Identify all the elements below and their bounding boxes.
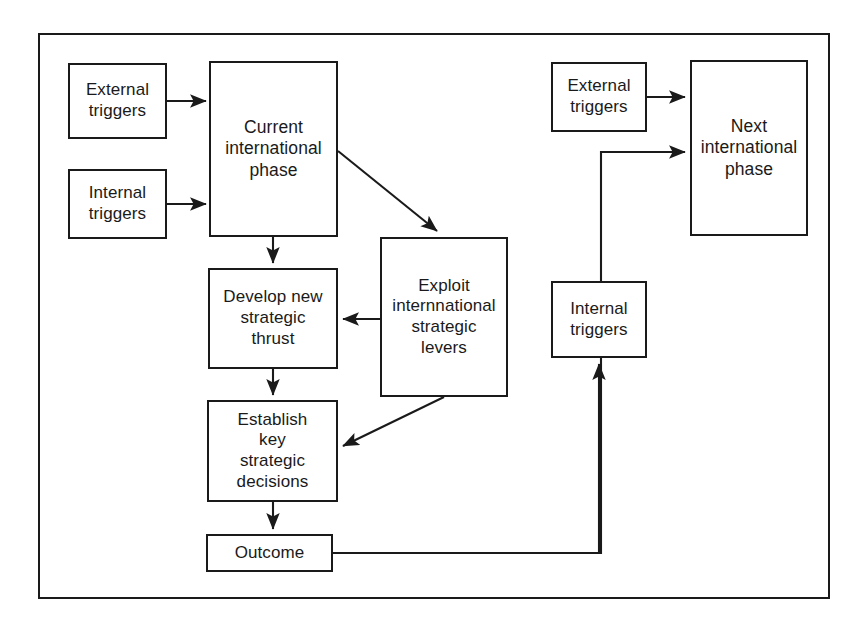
node-external-triggers-right: External triggers [551, 62, 647, 132]
node-label-internal-triggers-left: Internal triggers [87, 183, 149, 224]
node-label-exploit-international-strategic-levers: Exploit internnational strategic levers [390, 276, 497, 359]
node-external-triggers-left: External triggers [68, 63, 167, 139]
node-label-establish-key-strategic-decisions: Establish key strategic decisions [235, 410, 311, 493]
node-label-outcome: Outcome [233, 543, 307, 564]
node-label-current-international-phase: Current international phase [223, 117, 324, 181]
node-develop-new-strategic-thrust: Develop new strategic thrust [208, 268, 338, 369]
node-exploit-international-strategic-levers: Exploit internnational strategic levers [380, 237, 508, 397]
node-establish-key-strategic-decisions: Establish key strategic decisions [207, 400, 338, 502]
node-outcome: Outcome [206, 534, 333, 572]
node-label-next-international-phase: Next international phase [699, 116, 800, 180]
node-label-external-triggers-left: External triggers [84, 80, 151, 121]
node-label-internal-triggers-right: Internal triggers [568, 299, 630, 340]
node-internal-triggers-right: Internal triggers [551, 281, 647, 358]
diagram-canvas: External triggersInternal triggersCurren… [0, 0, 862, 633]
node-label-external-triggers-right: External triggers [565, 76, 632, 117]
node-internal-triggers-left: Internal triggers [68, 169, 167, 239]
node-next-international-phase: Next international phase [690, 60, 808, 236]
node-label-develop-new-strategic-thrust: Develop new strategic thrust [221, 287, 324, 349]
node-current-international-phase: Current international phase [209, 61, 338, 237]
